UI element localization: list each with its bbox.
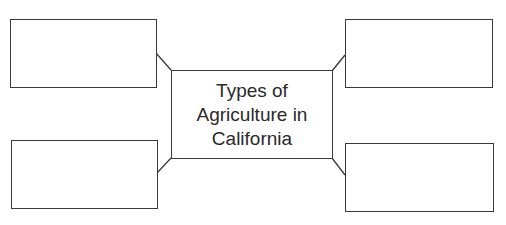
center-topic-label: Types of Agriculture in California xyxy=(197,79,308,151)
branch-box-top-right[interactable] xyxy=(345,19,493,88)
connector-bottom-right xyxy=(332,158,345,175)
branch-box-bottom-left[interactable] xyxy=(11,140,158,209)
connector-top-left xyxy=(156,53,171,70)
connector-top-right xyxy=(332,55,345,71)
branch-box-bottom-right[interactable] xyxy=(345,143,494,212)
connector-bottom-left xyxy=(157,158,171,173)
center-topic-box: Types of Agriculture in California xyxy=(171,70,333,159)
branch-box-top-left[interactable] xyxy=(10,19,157,88)
